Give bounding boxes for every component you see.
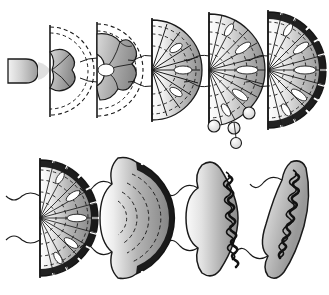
stage-1-plug (8, 59, 38, 83)
stage-1-lobed-mass (50, 49, 75, 90)
figure-root: Plug attached to flattened disc with das… (0, 0, 329, 295)
stage-series-diagram (0, 0, 329, 295)
